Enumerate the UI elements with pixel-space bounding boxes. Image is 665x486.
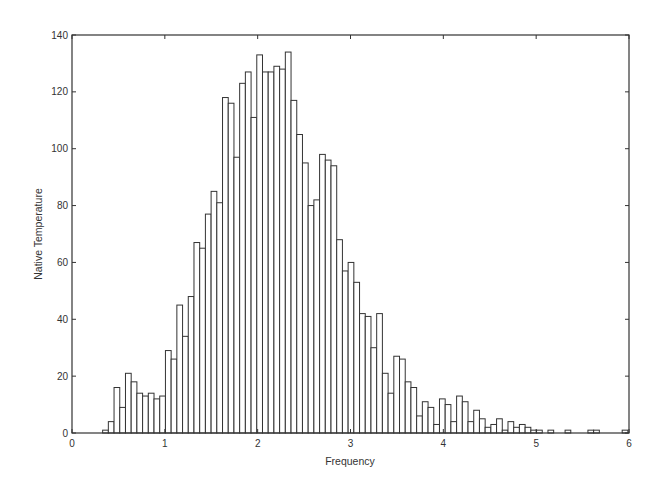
histogram-bar <box>508 422 514 433</box>
histogram-bar <box>474 410 480 433</box>
histogram-bar <box>451 422 457 433</box>
histogram-bar <box>348 262 354 433</box>
x-tick-label: 5 <box>533 438 539 449</box>
histogram-chart: 0123456 020406080100120140 Frequency Nat… <box>0 0 665 486</box>
histogram-bar <box>223 98 229 433</box>
histogram-bar <box>382 373 388 433</box>
histogram-bar <box>154 399 160 433</box>
histogram-bar <box>354 282 360 433</box>
histogram-bar <box>291 100 297 433</box>
histogram-bar <box>108 422 114 433</box>
histogram-bar <box>251 117 257 433</box>
histogram-bar <box>211 191 217 433</box>
histogram-bar <box>371 348 377 433</box>
histogram-bar <box>497 419 503 433</box>
y-tick-label: 140 <box>51 30 68 41</box>
histogram-bar <box>205 214 211 433</box>
x-axis-label: Frequency <box>325 455 375 467</box>
histogram-bar <box>314 200 320 433</box>
histogram-bar <box>143 396 149 433</box>
histogram-bar <box>445 405 451 433</box>
histogram-bar <box>320 154 326 433</box>
histogram-bar <box>342 271 348 433</box>
histogram-bar <box>165 351 171 433</box>
histogram-bar <box>514 427 520 433</box>
histogram-bar <box>148 393 154 433</box>
histogram-bar <box>125 373 131 433</box>
histogram-bar <box>405 382 411 433</box>
histogram-bar <box>485 427 491 433</box>
histogram-bar <box>137 393 143 433</box>
x-tick-label: 6 <box>626 438 632 449</box>
histogram-bar <box>388 393 394 433</box>
histogram-bar <box>217 203 223 433</box>
histogram-bar <box>365 316 371 433</box>
histogram-bar <box>120 407 126 433</box>
histogram-bar <box>411 388 417 433</box>
histogram-bar <box>257 55 263 433</box>
histogram-bar <box>131 382 137 433</box>
histogram-bar <box>183 336 189 433</box>
x-tick-label: 4 <box>441 438 447 449</box>
histogram-bar <box>479 419 485 433</box>
y-tick-label: 20 <box>57 371 69 382</box>
histogram-bar <box>200 248 206 433</box>
x-tick-label: 1 <box>162 438 168 449</box>
y-tick-label: 0 <box>62 428 68 439</box>
y-tick-label: 100 <box>51 143 68 154</box>
histogram-bar <box>360 314 366 433</box>
histogram-bar <box>422 402 428 433</box>
histogram-bar <box>394 356 400 433</box>
x-tick-label: 0 <box>69 438 75 449</box>
histogram-bar <box>525 427 531 433</box>
histogram-bars <box>103 52 628 433</box>
histogram-bar <box>491 424 497 433</box>
histogram-bar <box>171 359 177 433</box>
y-tick-label: 60 <box>57 257 69 268</box>
histogram-bar <box>274 66 280 433</box>
histogram-bar <box>377 314 383 433</box>
histogram-bar <box>308 206 314 433</box>
histogram-bar <box>228 103 234 433</box>
histogram-bar <box>240 83 246 433</box>
histogram-bar <box>457 396 463 433</box>
y-tick-label: 120 <box>51 86 68 97</box>
histogram-bar <box>297 135 303 434</box>
histogram-bar <box>468 422 474 433</box>
y-axis-label: Native Temperature <box>32 188 44 280</box>
histogram-bar <box>262 72 268 433</box>
y-tick-label: 80 <box>57 200 69 211</box>
histogram-bar <box>245 72 251 433</box>
histogram-bar <box>114 388 120 433</box>
histogram-bar <box>177 305 183 433</box>
histogram-bar <box>400 359 406 433</box>
histogram-bar <box>325 160 331 433</box>
histogram-bar <box>434 424 440 433</box>
histogram-bar <box>188 297 194 433</box>
histogram-bar <box>519 424 525 433</box>
histogram-bar <box>160 396 166 433</box>
histogram-bar <box>439 399 445 433</box>
histogram-bar <box>285 52 291 433</box>
x-tick-label: 3 <box>348 438 354 449</box>
histogram-bar <box>462 402 468 433</box>
y-tick-label: 40 <box>57 314 69 325</box>
histogram-bar <box>428 407 434 433</box>
histogram-bar <box>234 157 240 433</box>
histogram-bar <box>302 163 308 433</box>
x-tick-label: 2 <box>255 438 261 449</box>
histogram-bar <box>417 416 423 433</box>
histogram-bar <box>268 72 274 433</box>
histogram-bar <box>280 69 286 433</box>
histogram-bar <box>337 240 343 433</box>
histogram-bar <box>331 166 337 433</box>
histogram-bar <box>194 243 200 433</box>
